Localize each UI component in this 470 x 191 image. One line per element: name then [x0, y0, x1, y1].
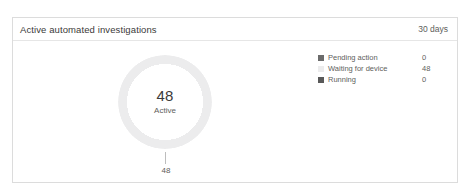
callout-value: 48: [151, 166, 181, 175]
legend-item-pending-action[interactable]: Pending action 0: [318, 53, 438, 63]
legend-swatch-icon: [318, 55, 324, 61]
dashboard-page: Active automated investigations 30 days …: [0, 0, 470, 191]
chart-legend: Pending action 0 Waiting for device 48 R…: [318, 53, 438, 86]
legend-label: Running: [328, 75, 422, 84]
legend-label: Waiting for device: [328, 64, 422, 73]
donut-total-caption: Active: [154, 105, 176, 116]
legend-item-waiting-for-device[interactable]: Waiting for device 48: [318, 64, 438, 74]
active-automated-investigations-card: Active automated investigations 30 days …: [12, 17, 458, 183]
time-range-label: 30 days: [418, 24, 448, 34]
donut-chart: 48 Active 48: [71, 55, 261, 179]
donut-center-label: 48 Active: [118, 55, 212, 149]
callout-leader-line: [165, 152, 166, 164]
legend-swatch-icon: [318, 77, 324, 83]
card-title: Active automated investigations: [20, 24, 157, 35]
legend-item-running[interactable]: Running 0: [318, 75, 438, 85]
legend-count: 0: [422, 53, 438, 62]
legend-swatch-icon: [318, 66, 324, 72]
legend-label: Pending action: [328, 53, 422, 62]
card-header: Active automated investigations 30 days: [13, 18, 457, 41]
card-body: 48 Active 48 Pending action 0 Waiting fo…: [13, 41, 457, 182]
donut-total-value: 48: [156, 88, 173, 104]
legend-count: 48: [422, 64, 438, 73]
legend-count: 0: [422, 75, 438, 84]
